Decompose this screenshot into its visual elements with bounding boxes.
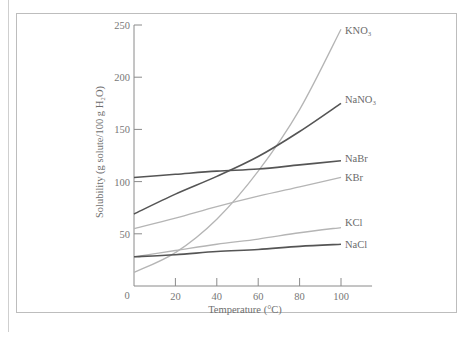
series-lines — [134, 29, 341, 272]
series-labels: KNO₃NaNO₃NaBrKBrKClNaCl — [345, 25, 376, 250]
x-tick-label: 100 — [333, 291, 349, 302]
y-tick-label: 100 — [114, 177, 130, 188]
y-axis-title: Solubility (g solute/100 g H₂O) — [94, 86, 106, 218]
series-label: KCl — [345, 217, 363, 228]
x-tick-label: 60 — [253, 291, 264, 302]
y-tick-label: 250 — [114, 20, 130, 31]
series-label: NaBr — [345, 153, 368, 164]
y-tick-label: 150 — [114, 124, 130, 135]
series-line-kno3 — [134, 29, 341, 272]
y-tick-label: 50 — [120, 229, 131, 240]
x-tick-label: 80 — [294, 291, 305, 302]
y-tick-label: 0 — [124, 290, 129, 301]
x-axis-title: Temperature (°C) — [208, 304, 282, 316]
series-label: KNO₃ — [345, 25, 372, 36]
series-label: KBr — [345, 172, 364, 183]
solubility-chart: 05010015020025020406080100 KNO₃NaNO₃NaBr… — [0, 0, 476, 345]
series-label: NaCl — [345, 239, 367, 250]
series-line-kcl — [134, 228, 341, 257]
series-line-nabr — [134, 161, 341, 178]
y-tick-label: 200 — [114, 72, 130, 83]
series-label: NaNO₃ — [345, 94, 376, 105]
x-tick-label: 40 — [212, 291, 223, 302]
series-line-kbr — [134, 177, 341, 228]
x-tick-label: 20 — [170, 291, 181, 302]
series-line-nacl — [134, 244, 341, 257]
